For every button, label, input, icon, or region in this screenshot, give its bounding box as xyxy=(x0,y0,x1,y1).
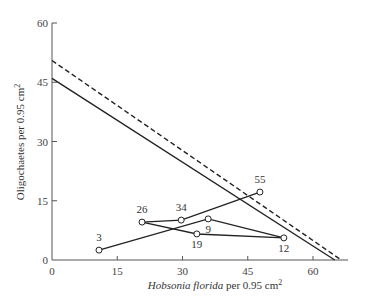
data-point xyxy=(139,219,145,225)
isoclines xyxy=(52,61,341,260)
y-tick-label: 15 xyxy=(37,195,49,207)
data-point xyxy=(205,216,211,222)
y-tick-label: 45 xyxy=(37,76,49,88)
x-tick-label: 0 xyxy=(49,265,55,277)
y-tick-label: 0 xyxy=(43,254,49,266)
trajectory-line xyxy=(142,222,284,238)
y-axis-label: Oligochaetes per 0.95 cm2 xyxy=(13,84,26,200)
x-tick-label: 15 xyxy=(112,265,124,277)
trajectory-line xyxy=(142,192,260,222)
y-tick-label: 30 xyxy=(37,136,49,148)
dashed-isocline xyxy=(52,61,341,260)
data-point-label: 55 xyxy=(254,173,266,185)
data-points: 326345591912 xyxy=(96,173,289,254)
x-tick-label: 30 xyxy=(177,265,189,277)
data-point-label: 3 xyxy=(96,231,102,243)
data-point xyxy=(281,235,287,241)
data-point-label: 12 xyxy=(278,242,289,254)
data-point-label: 9 xyxy=(205,223,211,235)
data-point-label: 34 xyxy=(176,201,188,213)
y-tick-label: 60 xyxy=(37,17,49,29)
x-tick-label: 45 xyxy=(242,265,254,277)
data-point-label: 19 xyxy=(191,238,203,250)
data-point-label: 26 xyxy=(137,203,149,215)
x-tick-label: 60 xyxy=(308,265,320,277)
data-point xyxy=(178,217,184,223)
chart: 015304560015304560 326345591912 Hobsonia… xyxy=(0,0,380,306)
data-point xyxy=(194,231,200,237)
x-axis-label: Hobsonia florida per 0.95 cm2 xyxy=(147,278,282,291)
data-point xyxy=(257,189,263,195)
data-point xyxy=(96,247,102,253)
